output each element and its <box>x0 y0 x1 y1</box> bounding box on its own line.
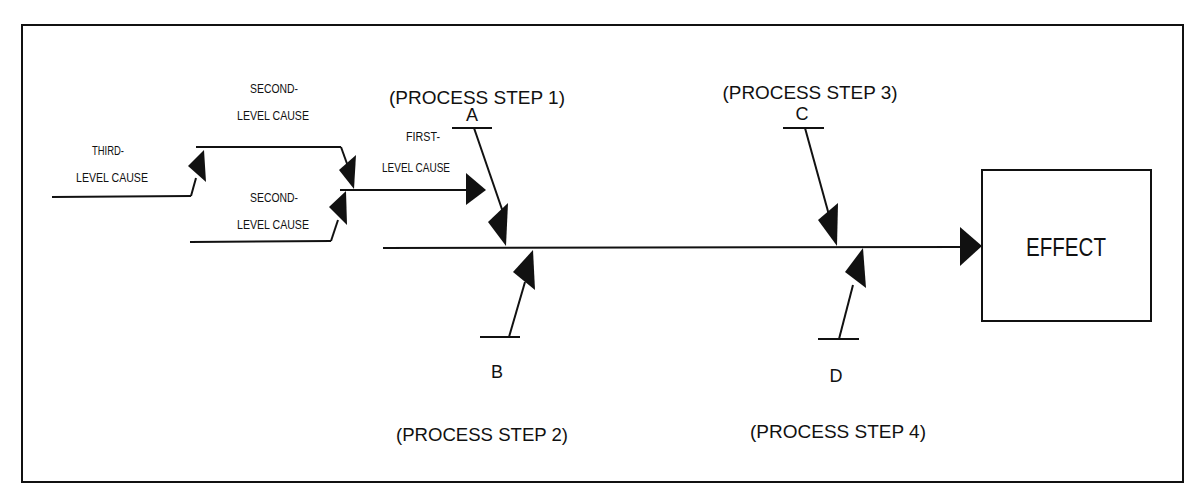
second-level-top-line2: LEVEL CAUSE <box>237 109 309 123</box>
process-step-b: B (PROCESS STEP 2) <box>396 250 568 445</box>
third-level-line2: LEVEL CAUSE <box>76 171 148 185</box>
bone-d-arrowhead-icon <box>845 248 866 288</box>
cause-letter-b: B <box>491 362 503 382</box>
third-level-cause: THIRD- LEVEL CAUSE <box>52 144 206 197</box>
fishbone-diagram: EFFECT (PROCESS STEP 1) A B (PROCESS STE… <box>0 0 1201 492</box>
third-level-line1: THIRD- <box>92 144 124 158</box>
second-level-cause-top: SECOND- LEVEL CAUSE <box>196 82 356 189</box>
process-step-2-label: (PROCESS STEP 2) <box>396 425 568 445</box>
process-step-c: (PROCESS STEP 3) C <box>723 83 898 246</box>
second-level-bottom-line1: SECOND- <box>250 191 298 205</box>
cause-letter-c: C <box>796 104 809 124</box>
process-step-4-label: (PROCESS STEP 4) <box>750 422 926 442</box>
process-step-3-label: (PROCESS STEP 3) <box>723 83 898 103</box>
second-level-bottom-arrowhead-icon <box>329 191 347 225</box>
effect-box: EFFECT <box>982 170 1151 321</box>
second-level-cause-bottom: SECOND- LEVEL CAUSE <box>190 191 347 242</box>
diagram-frame <box>22 25 1183 482</box>
second-level-top-line1: SECOND- <box>250 82 298 96</box>
third-level-arrowhead-icon <box>188 150 206 182</box>
first-level-cause: FIRST- LEVEL CAUSE <box>340 130 486 205</box>
second-level-top-arrowhead-icon <box>339 155 356 189</box>
first-level-cause-line1: FIRST- <box>406 130 440 144</box>
first-level-cause-line2: LEVEL CAUSE <box>382 161 450 175</box>
effect-label: EFFECT <box>1026 232 1106 262</box>
second-level-bottom-line2: LEVEL CAUSE <box>237 218 309 232</box>
bone-a-arrowhead-icon <box>488 203 508 246</box>
cause-letter-d: D <box>830 366 843 386</box>
main-spine <box>383 247 962 248</box>
process-step-d: D (PROCESS STEP 4) <box>750 248 926 442</box>
spine-arrowhead-icon <box>960 227 982 266</box>
first-level-arrowhead-icon <box>466 173 486 205</box>
cause-letter-a: A <box>466 105 478 125</box>
